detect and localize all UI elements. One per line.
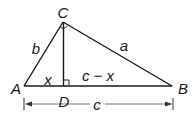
dimension-label-c: c bbox=[93, 97, 101, 112]
segment-label-c-minus-x: c − x bbox=[82, 68, 114, 83]
right-angle-marker-d bbox=[64, 80, 70, 86]
vertex-label-b: B bbox=[178, 81, 188, 96]
vertex-label-d: D bbox=[59, 94, 70, 109]
vertex-label-a: A bbox=[11, 81, 21, 96]
dimension-arrow-left-icon bbox=[25, 102, 32, 107]
segment-label-x: x bbox=[44, 72, 52, 87]
vertex-label-c: C bbox=[58, 5, 69, 20]
side-a bbox=[63, 22, 172, 86]
dimension-arrow-right-icon bbox=[165, 102, 172, 107]
side-label-b: b bbox=[32, 41, 40, 56]
triangle-diagram: C A B D b a x c − x c bbox=[0, 0, 194, 114]
side-label-a: a bbox=[120, 38, 128, 53]
